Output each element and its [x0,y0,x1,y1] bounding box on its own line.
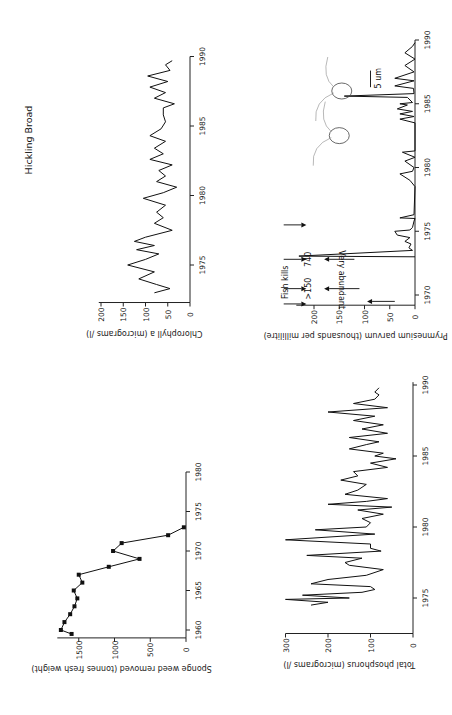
value-tick-label: 200 [324,638,333,653]
data-point-marker [72,589,76,593]
phosphorus-panel: 19751980198519900100200300Total phosphor… [282,375,431,668]
data-point-marker [72,604,76,608]
value-tick-label: 100 [367,638,376,653]
value-axis-label: Total phosphorus (micrograms /l) [283,660,416,669]
data-point-marker [80,581,84,585]
data-series-line [128,61,177,293]
figure-canvas: Hickling Broad 1975198019851990050100150… [0,0,452,715]
data-point-marker [75,596,79,600]
arrow-head-icon [324,257,329,262]
value-axis-label: Sponge weed removed (tonnes fresh weight… [31,664,211,673]
arrow-head-icon [367,299,372,304]
prymnesium-panel: 19701975198019851990050100150200Prymnesi… [264,30,448,340]
time-tick-label: 1970 [423,285,432,304]
value-axis-label: Prymnesium parvum (thousands per millili… [264,331,448,340]
data-point-marker [77,573,81,577]
very-abundant-label: Very abundant [337,250,346,309]
time-tick-label: 1985 [423,94,432,113]
time-tick-label: 1985 [421,446,430,465]
data-point-marker [182,525,186,529]
time-tick-label: 1970 [194,541,203,560]
time-tick-label: 1990 [423,30,432,49]
value-tick-label: 50 [164,310,173,320]
data-point-marker [111,549,115,553]
value-tick-label: 200 [97,307,106,322]
time-tick-label: 1980 [198,186,207,205]
time-tick-label: 1960 [194,620,203,639]
value-tick-label: 100 [361,310,370,325]
value-tick-label: 1500 [75,640,84,659]
time-tick-label: 1980 [421,517,430,536]
figure-title: Hickling Broad [23,106,34,175]
flagella-icon [313,102,331,166]
time-tick-label: 1975 [423,221,432,240]
time-tick-label: 1990 [198,47,207,66]
data-point-marker [62,620,66,624]
value-tick-label: 0 [409,643,418,648]
value-tick-label: 1000 [111,640,120,659]
time-tick-label: 1975 [194,502,203,521]
value-tick-label: 150 [119,307,128,322]
time-tick-label: 1975 [421,588,430,607]
value-annotation: 740 [304,252,313,267]
arrow-head-icon [324,286,329,291]
value-tick-label: 200 [310,310,319,325]
time-tick-label: 1980 [423,158,432,177]
cell-illustration-icon [329,128,349,144]
time-tick-label: 1975 [198,255,207,274]
sponge-weed-panel: 19601965197019751980050010001500Sponge w… [31,462,211,673]
value-tick-label: 300 [282,638,291,653]
value-tick-label: 50 [386,312,395,322]
time-tick-label: 1985 [198,116,207,135]
data-point-marker [68,612,72,616]
value-annotation: >150 [304,278,313,300]
value-tick-label: 500 [146,643,155,658]
data-series-line [286,388,397,605]
cell-illustration-icon [332,83,352,99]
data-point-marker [70,632,74,636]
flagella-icon [316,57,334,121]
time-tick-label: 1980 [194,462,203,481]
data-point-marker [107,565,111,569]
value-axis-label: Chlorophyll a (micrograms /l) [86,329,202,338]
value-tick-label: 0 [186,312,195,317]
scale-bar-label: 5 um [374,68,383,89]
data-point-marker [120,541,124,545]
value-tick-label: 150 [335,310,344,325]
value-tick-label: 0 [411,315,420,320]
chlorophyll-panel: 1975198019851990050100150200Chlorophyll … [86,47,207,338]
time-tick-label: 1990 [421,375,430,394]
fish-kills-label: Fish kills [281,266,290,300]
data-point-marker [138,557,142,561]
value-tick-label: 0 [182,647,191,652]
value-tick-label: 100 [142,307,151,322]
arrow-head-icon [301,222,306,227]
data-point-marker [59,628,63,632]
data-point-marker [166,533,170,537]
time-tick-label: 1965 [194,581,203,600]
